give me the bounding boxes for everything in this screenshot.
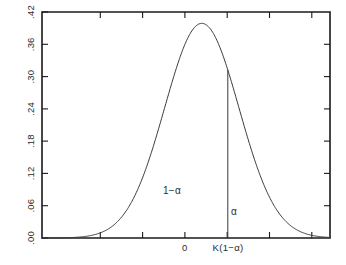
y-label-18: .18 [25, 134, 36, 148]
y-label-36: .36 [25, 37, 36, 51]
normal-distribution-chart: .42 .36 .30 .24 .18 .12 .06 .00 0 K(1−α)… [0, 0, 346, 265]
plot-frame [42, 12, 330, 238]
region-label-right: α [231, 206, 237, 217]
frame-path [42, 12, 330, 238]
density-curve [42, 23, 330, 238]
region-label-left: 1−α [163, 185, 181, 196]
figure-container: .42 .36 .30 .24 .18 .12 .06 .00 0 K(1−α)… [0, 0, 346, 265]
region-annotations: 1−α α [163, 185, 237, 217]
y-axis-ticks [42, 12, 48, 238]
y-label-30: .30 [25, 70, 36, 84]
y-label-24: .24 [25, 102, 36, 116]
y-label-00: .00 [25, 231, 36, 245]
x-label-origin: 0 [182, 242, 188, 253]
x-label-critical: K(1−α) [213, 242, 244, 253]
y-label-12: .12 [25, 166, 36, 180]
right-axis-ticks [324, 44, 330, 205]
y-label-42: .42 [25, 5, 36, 19]
x-axis-ticks-top [100, 12, 311, 18]
x-axis-labels: 0 K(1−α) [182, 242, 243, 253]
y-axis-labels: .42 .36 .30 .24 .18 .12 .06 .00 [25, 5, 36, 245]
x-axis-ticks-bottom [100, 232, 311, 238]
y-label-06: .06 [25, 199, 36, 213]
